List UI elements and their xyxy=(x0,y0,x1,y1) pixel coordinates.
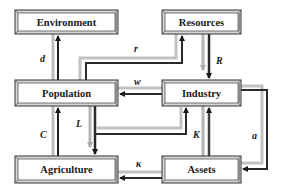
edge-population-to-resources xyxy=(80,34,182,80)
node-industry: Industry xyxy=(162,80,241,106)
edge-label-w: w xyxy=(134,76,141,87)
node-resources: Resources xyxy=(162,10,241,34)
edge-label-L: L xyxy=(75,118,82,129)
edge-assets-to-agriculture xyxy=(118,172,162,178)
edge-label-C: C xyxy=(40,129,47,140)
node-population: Population xyxy=(15,80,118,106)
edge-assets-to-industry xyxy=(203,106,209,156)
edge-resources-to-industry xyxy=(203,34,209,78)
edge-population-to-environment xyxy=(53,34,58,80)
node-label: Agriculture xyxy=(40,164,93,175)
edge-population-to-agriculture xyxy=(90,106,95,154)
edge-industry-to-assets xyxy=(241,86,267,169)
edge-label-r: r xyxy=(134,43,138,54)
node-label: Environment xyxy=(37,17,97,28)
edge-label-K: K xyxy=(192,129,201,140)
node-label: Industry xyxy=(182,88,222,99)
edge-label-R: R xyxy=(215,55,223,66)
node-assets: Assets xyxy=(162,156,241,183)
diagram-canvas: Environment Resources Population Industr… xyxy=(0,0,283,195)
node-agriculture: Agriculture xyxy=(15,156,118,183)
edge-label-d: d xyxy=(40,53,46,64)
edge-label-a: a xyxy=(252,130,257,141)
node-environment: Environment xyxy=(15,10,118,34)
node-label: Assets xyxy=(188,164,216,175)
node-label: Population xyxy=(42,88,91,99)
edge-population-to-industry xyxy=(96,107,186,134)
edge-agriculture-to-population xyxy=(53,106,58,156)
edge-label-kappa: κ xyxy=(136,158,142,169)
edge-industry-to-population xyxy=(118,88,162,94)
node-label: Resources xyxy=(179,17,224,28)
